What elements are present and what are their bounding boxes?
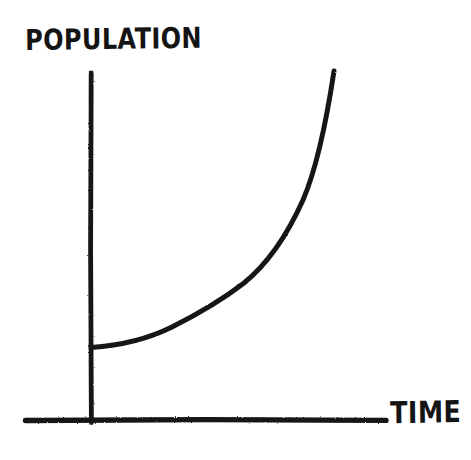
chart-plot-area xyxy=(0,0,471,460)
x-axis-line xyxy=(26,420,387,421)
population-growth-curve xyxy=(91,71,334,348)
chart-figure: POPULATION TIME xyxy=(0,0,471,460)
y-axis-line xyxy=(91,73,92,423)
